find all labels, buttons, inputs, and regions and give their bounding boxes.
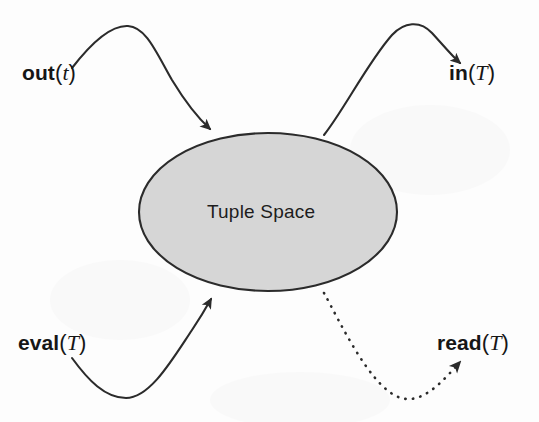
tuple-space-label: Tuple Space: [207, 201, 315, 223]
operation-arg-read: T: [489, 330, 501, 355]
operation-label-eval: eval(T): [18, 330, 87, 356]
operation-name-eval: eval: [18, 331, 59, 354]
operation-close-paren-eval: ): [79, 330, 86, 355]
operation-arg-in: T: [475, 60, 487, 85]
operation-name-in: in: [449, 61, 468, 84]
operation-close-paren-out: ): [69, 60, 76, 85]
operation-label-out: out(t): [22, 60, 76, 86]
operation-name-out: out: [22, 61, 55, 84]
operation-label-in: in(T): [449, 60, 495, 86]
operation-arg-eval: T: [67, 330, 79, 355]
operation-close-paren-read: ): [502, 330, 509, 355]
operation-name-read: read: [437, 331, 482, 354]
operation-label-read: read(T): [437, 330, 509, 356]
operation-close-paren-in: ): [488, 60, 495, 85]
diagram-canvas: Tuple Space out(t) in(T) eval(T) read(T): [0, 0, 539, 422]
operation-open-paren-eval: (: [59, 330, 66, 355]
